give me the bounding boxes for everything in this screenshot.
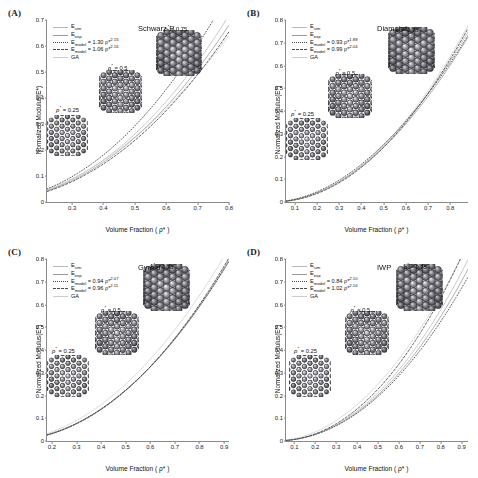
plot-inner: EsimEexpEmodel = 1.30 ρ*2.15Emodel = 1.0… <box>47 20 229 202</box>
y-tick-label: 0 <box>280 438 283 444</box>
y-tick-mark <box>45 98 48 99</box>
legend-entry: Esim <box>292 263 357 270</box>
lattice-cube-0p25 <box>286 118 328 160</box>
y-tick-mark <box>284 88 287 89</box>
x-tick-mark <box>72 202 73 205</box>
x-tick-mark <box>336 441 337 444</box>
y-tick-label: 0.8 <box>36 256 44 262</box>
x-tick-label: 0.9 <box>458 444 466 450</box>
plot-area: EsimEexpEmodel = 1.30 ρ*2.15Emodel = 1.0… <box>46 20 229 203</box>
x-tick-label: 0.6 <box>402 205 410 211</box>
x-axis-label: Volume Fraction ( ρ* ) <box>285 226 468 233</box>
y-tick-mark <box>45 150 48 151</box>
x-axis-label: Volume Fraction ( ρ* ) <box>285 465 468 472</box>
legend-entry: Esim <box>53 24 118 31</box>
panel-b: (B)EsimEexpEmodel = 0.93 ρ*1.88Emodel = … <box>239 0 478 239</box>
x-tick-mark <box>339 202 340 205</box>
y-tick-label: 0.2 <box>275 393 283 399</box>
y-tick-label: 0 <box>280 199 283 205</box>
panel-title: Gyroid <box>138 263 160 272</box>
x-tick-mark <box>315 441 316 444</box>
y-tick-mark <box>284 65 287 66</box>
x-tick-label: 0.4 <box>97 444 105 450</box>
x-tick-label: 0.5 <box>131 205 139 211</box>
legend-line <box>292 57 307 58</box>
x-tick-label: 0.8 <box>446 205 454 211</box>
y-tick-mark <box>284 304 287 305</box>
rho-annotation: ρ* = 0.5 <box>101 305 121 313</box>
x-tick-mark <box>134 202 135 205</box>
rho-annotation: ρ* = 0.5 <box>335 68 355 76</box>
lattice-render <box>47 115 88 156</box>
legend: EsimEexpEmodel = 0.94 ρ*2.07Emodel = 0.9… <box>53 263 118 300</box>
legend-line <box>292 27 307 28</box>
panel-title: Diamond <box>377 24 407 33</box>
legend-line <box>53 288 68 289</box>
legend-line <box>53 42 68 43</box>
rho-annotation: ρ* = 0.25 <box>291 109 314 117</box>
y-tick-label: 0.6 <box>36 43 44 49</box>
legend: EsimEexpEmodel = 1.30 ρ*2.15Emodel = 1.0… <box>53 24 118 61</box>
y-tick-mark <box>284 156 287 157</box>
y-axis-label: Normalized Modulus(E*) <box>274 324 281 392</box>
y-tick-mark <box>284 20 287 21</box>
x-tick-mark <box>378 441 379 444</box>
lattice-cube-0p5 <box>99 70 142 113</box>
x-tick-mark <box>174 441 175 444</box>
legend-line <box>292 42 307 43</box>
y-tick-mark <box>284 372 287 373</box>
rho-annotation: ρ* = 0.25 <box>56 105 79 113</box>
x-tick-label: 0.7 <box>171 444 179 450</box>
x-tick-mark <box>199 441 200 444</box>
y-tick-mark <box>45 281 48 282</box>
x-tick-mark <box>150 441 151 444</box>
y-tick-mark <box>284 441 287 442</box>
x-tick-label: 0.9 <box>220 444 228 450</box>
x-tick-label: 0.1 <box>290 444 298 450</box>
x-tick-label: 0.7 <box>424 205 432 211</box>
x-tick-label: 0.6 <box>395 444 403 450</box>
x-tick-label: 0.3 <box>72 444 80 450</box>
lattice-render <box>328 74 372 118</box>
x-tick-mark <box>294 441 295 444</box>
rho-annotation: ρ* = 0.5 <box>108 63 128 71</box>
y-tick-mark <box>45 20 48 21</box>
panel-label: (A) <box>8 8 21 18</box>
y-tick-label: 0.7 <box>275 40 283 46</box>
y-tick-mark <box>45 372 48 373</box>
y-axis-label: Normalized Modulus(E*) <box>35 85 42 153</box>
x-tick-label: 0.7 <box>416 444 424 450</box>
x-tick-label: 0.8 <box>195 444 203 450</box>
legend-label: GA <box>71 53 79 62</box>
legend-line <box>292 49 307 50</box>
x-tick-label: 0.5 <box>122 444 130 450</box>
panel-a: (A)EsimEexpEmodel = 1.30 ρ*2.15Emodel = … <box>0 0 239 239</box>
x-tick-mark <box>229 202 230 205</box>
lattice-cube-0p75 <box>396 264 443 311</box>
y-tick-mark <box>284 418 287 419</box>
x-tick-label: 0.4 <box>357 205 365 211</box>
y-tick-label: 0.1 <box>275 415 283 421</box>
x-tick-mark <box>361 202 362 205</box>
legend-line <box>53 274 68 275</box>
legend-line <box>292 266 307 267</box>
y-tick-label: 0.1 <box>36 173 44 179</box>
lattice-render <box>99 70 142 113</box>
rho-annotation: ρ* = 0.5 <box>351 305 371 313</box>
legend-entry: Emodel = 1.02 ρ*2.16 <box>292 285 357 292</box>
legend-line <box>53 49 68 50</box>
x-tick-mark <box>76 441 77 444</box>
legend-line <box>292 288 307 289</box>
y-tick-mark <box>284 133 287 134</box>
x-tick-label: 0.2 <box>311 444 319 450</box>
x-tick-mark <box>224 441 225 444</box>
legend: EsimEexpEmodel = 0.84 ρ*2.10Emodel = 1.0… <box>292 263 357 300</box>
y-tick-mark <box>45 176 48 177</box>
plot-area: EsimEexpEmodel = 0.84 ρ*2.10Emodel = 1.0… <box>285 259 468 442</box>
y-tick-mark <box>45 327 48 328</box>
y-tick-mark <box>45 46 48 47</box>
x-axis-label: Volume Fraction ( ρ* ) <box>46 465 229 472</box>
rho-annotation: ρ* = 0.25 <box>52 346 75 354</box>
legend-line <box>292 296 307 297</box>
legend-line <box>53 266 68 267</box>
